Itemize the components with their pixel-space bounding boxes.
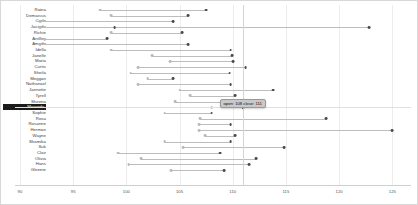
close-marker[interactable] <box>172 77 175 80</box>
close-marker[interactable] <box>228 72 231 75</box>
open-marker[interactable] <box>137 83 140 86</box>
close-marker[interactable] <box>229 83 232 86</box>
range-connector <box>141 159 256 160</box>
hover-guide-line <box>15 107 411 108</box>
range-connector <box>129 164 249 165</box>
range-connector <box>138 67 245 68</box>
close-marker[interactable] <box>229 140 232 143</box>
close-marker[interactable] <box>368 26 371 29</box>
range-connector <box>190 96 235 97</box>
open-marker[interactable] <box>178 89 181 92</box>
open-marker[interactable] <box>39 37 42 40</box>
open-marker[interactable] <box>39 26 42 29</box>
open-marker[interactable] <box>39 20 42 23</box>
close-marker[interactable] <box>187 14 190 17</box>
range-connector <box>171 170 224 171</box>
close-marker[interactable] <box>230 54 233 57</box>
range-connector <box>100 10 206 11</box>
range-connector <box>40 39 107 40</box>
crosshair-vertical <box>243 5 244 185</box>
close-marker[interactable] <box>229 123 232 126</box>
open-marker[interactable] <box>110 14 113 17</box>
open-marker[interactable] <box>163 112 166 115</box>
chart-container: 9095100105110115120125RainaDemarcusCarlo… <box>0 0 418 205</box>
chart-row[interactable]: Glennie <box>1 167 418 173</box>
open-marker[interactable] <box>170 169 173 172</box>
close-marker[interactable] <box>187 43 190 46</box>
range-connector <box>40 44 188 45</box>
range-connector <box>131 73 230 74</box>
range-connector <box>40 27 369 28</box>
close-marker[interactable] <box>219 152 222 155</box>
close-marker[interactable] <box>244 66 247 69</box>
range-connector <box>152 56 232 57</box>
open-marker[interactable] <box>197 123 200 126</box>
close-marker[interactable] <box>233 94 236 97</box>
range-connector <box>138 84 231 85</box>
range-connector <box>199 130 393 131</box>
x-axis-tick-label: 125 <box>389 189 396 195</box>
open-marker[interactable] <box>169 60 172 63</box>
open-marker[interactable] <box>137 66 140 69</box>
range-connector <box>199 124 231 125</box>
row-label[interactable]: Glennie <box>6 167 46 173</box>
close-marker[interactable] <box>205 9 208 12</box>
open-marker[interactable] <box>198 117 201 120</box>
range-connector <box>118 153 220 154</box>
open-marker[interactable] <box>140 157 143 160</box>
range-connector <box>40 21 173 22</box>
range-connector <box>200 119 327 120</box>
open-marker[interactable] <box>110 31 113 34</box>
x-axis-tick-label: 110 <box>229 189 236 195</box>
open-marker[interactable] <box>189 94 192 97</box>
open-marker[interactable] <box>204 134 207 137</box>
range-connector <box>111 16 188 17</box>
range-connector <box>180 90 274 91</box>
range-connector <box>205 136 235 137</box>
open-marker[interactable] <box>98 9 101 12</box>
x-axis-line <box>15 185 411 186</box>
open-marker[interactable] <box>127 163 130 166</box>
range-connector <box>165 113 212 114</box>
close-marker[interactable] <box>223 169 226 172</box>
close-marker[interactable] <box>272 89 275 92</box>
dumbbell-plot[interactable]: 9095100105110115120125RainaDemarcusCarlo… <box>1 1 418 205</box>
x-axis-tick-label: 90 <box>18 189 23 195</box>
x-axis-tick-label: 105 <box>176 189 183 195</box>
x-axis-tick-label: 120 <box>336 189 343 195</box>
close-marker[interactable] <box>325 117 328 120</box>
range-connector <box>111 33 181 34</box>
close-marker[interactable] <box>233 134 236 137</box>
close-marker[interactable] <box>247 163 250 166</box>
open-marker[interactable] <box>146 77 149 80</box>
range-connector <box>148 79 174 80</box>
open-marker[interactable] <box>151 54 154 57</box>
x-axis-tick-label: 115 <box>282 189 289 195</box>
close-marker[interactable] <box>106 37 109 40</box>
x-axis-tick-label: 95 <box>71 189 76 195</box>
range-connector <box>165 142 231 143</box>
close-marker[interactable] <box>229 49 232 52</box>
range-connector <box>183 147 284 148</box>
close-marker[interactable] <box>391 129 394 132</box>
close-marker[interactable] <box>255 157 258 160</box>
tooltip: open: 108 close: 111 <box>220 99 266 108</box>
close-marker[interactable] <box>210 112 213 115</box>
open-marker[interactable] <box>129 72 132 75</box>
open-marker[interactable] <box>181 146 184 149</box>
open-marker[interactable] <box>116 152 119 155</box>
open-marker[interactable] <box>197 129 200 132</box>
open-marker[interactable] <box>39 43 42 46</box>
close-marker[interactable] <box>180 31 183 34</box>
x-axis-tick-label: 100 <box>123 189 130 195</box>
open-marker[interactable] <box>163 140 166 143</box>
close-marker[interactable] <box>282 146 285 149</box>
range-connector <box>170 61 233 62</box>
close-marker[interactable] <box>231 60 234 63</box>
open-marker[interactable] <box>174 100 177 103</box>
close-marker[interactable] <box>172 20 175 23</box>
range-connector <box>111 50 230 51</box>
close-marker[interactable] <box>113 26 116 29</box>
open-marker[interactable] <box>110 49 113 52</box>
